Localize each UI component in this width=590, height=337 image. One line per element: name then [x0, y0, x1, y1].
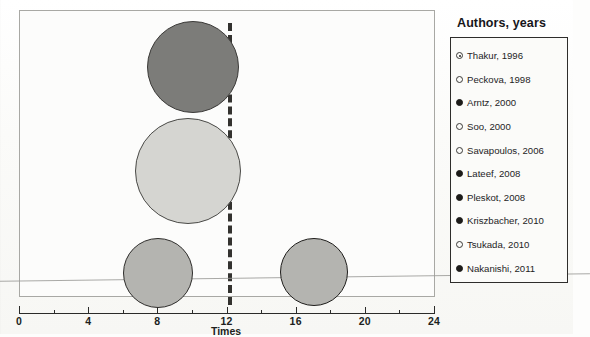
- legend-box: Thakur, 1996Peckova, 1998Arntz, 2000Soo,…: [450, 37, 568, 283]
- legend-item-2: Arntz, 2000: [456, 91, 567, 115]
- legend-marker-filled-icon: [456, 194, 463, 201]
- legend-marker-filled-icon: [456, 265, 463, 272]
- legend-marker-filled-icon: [456, 170, 463, 177]
- legend-item-7: Kriszbacher, 2010: [456, 209, 567, 233]
- x-tick-4: [88, 307, 89, 313]
- legend-item-label: Lateef, 2008: [467, 168, 520, 179]
- legend-item-label: Soo, 2000: [467, 121, 511, 132]
- legend-item-8: Tsukada, 2010: [456, 233, 567, 257]
- legend-title: Authors, years: [457, 16, 546, 30]
- legend-marker-hollow-icon: [456, 241, 463, 248]
- legend-item-4: Savapoulos, 2006: [456, 138, 567, 162]
- bubble-chart-plot-area: [19, 10, 435, 297]
- x-tick-label-24: 24: [428, 315, 440, 327]
- x-minor-tick-14: [261, 310, 262, 314]
- legend-item-label: Peckova, 1998: [467, 74, 530, 85]
- bubble-light-largest: [135, 118, 241, 224]
- x-tick-0: [19, 306, 20, 313]
- bubble-dark-large: [147, 21, 239, 113]
- x-tick-label-20: 20: [359, 315, 371, 327]
- legend-item-label: Savapoulos, 2006: [467, 145, 544, 156]
- legend-item-label: Thakur, 1996: [467, 50, 523, 61]
- legend-marker-filled-icon: [456, 99, 463, 106]
- x-axis-title: Times: [211, 325, 241, 337]
- x-minor-tick-10: [192, 310, 193, 314]
- x-tick-16: [296, 307, 297, 313]
- x-minor-tick-18: [330, 310, 331, 314]
- legend-item-label: Kriszbacher, 2010: [467, 215, 544, 226]
- x-tick-12: [227, 307, 228, 313]
- x-tick-label-16: 16: [290, 315, 302, 327]
- legend-marker-hollow-icon: [456, 76, 463, 83]
- x-minor-tick-6: [123, 310, 124, 314]
- legend-marker-target-icon: [456, 52, 463, 59]
- legend-item-9: Nakanishi, 2011: [456, 256, 567, 280]
- legend-item-5: Lateef, 2008: [456, 162, 567, 186]
- x-tick-label-0: 0: [16, 315, 22, 327]
- legend-marker-hollow-icon: [456, 123, 463, 130]
- legend-item-label: Tsukada, 2010: [467, 239, 529, 250]
- x-tick-20: [365, 307, 366, 313]
- bubble-mid-left: [123, 238, 193, 308]
- legend-item-label: Arntz, 2000: [467, 97, 516, 108]
- legend-item-label: Pleskot, 2008: [467, 192, 525, 203]
- x-minor-tick-2: [54, 310, 55, 314]
- legend-item-6: Pleskot, 2008: [456, 186, 567, 210]
- bubble-mid-right: [280, 238, 348, 306]
- legend-item-label: Nakanishi, 2011: [467, 263, 535, 274]
- x-axis-line: [19, 313, 435, 314]
- legend-marker-filled-icon: [456, 217, 463, 224]
- x-tick-label-4: 4: [85, 315, 91, 327]
- legend-item-3: Soo, 2000: [456, 115, 567, 139]
- legend-marker-hollow-icon: [456, 147, 463, 154]
- x-minor-tick-22: [399, 310, 400, 314]
- x-tick-label-8: 8: [154, 315, 160, 327]
- legend-item-1: Peckova, 1998: [456, 68, 567, 92]
- legend-item-0: Thakur, 1996: [456, 44, 567, 68]
- x-tick-24: [434, 306, 435, 313]
